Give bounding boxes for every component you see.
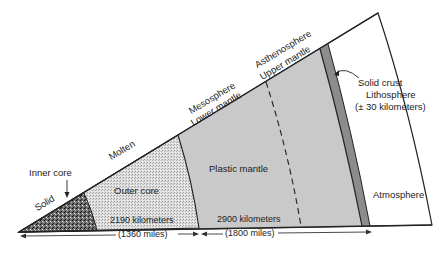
- outer-core-label: Outer core: [114, 186, 159, 196]
- lithosphere-label: Lithosphere: [366, 90, 416, 100]
- plastic-mantle-label: Plastic mantle: [209, 164, 268, 174]
- atmosphere-label: Atmosphere: [373, 190, 424, 200]
- lithosphere-thickness-label: (± 30 kilometers): [355, 102, 426, 112]
- mantle-km-label: 2900 kilometers: [217, 215, 281, 224]
- core-miles-label: (1360 miles): [118, 230, 168, 239]
- inner-core-region: [19, 193, 97, 232]
- solid-crust-label: Solid crust: [358, 78, 402, 88]
- mantle-miles-label: (1800 miles): [225, 229, 275, 238]
- core-dimension-arrow: [20, 232, 199, 239]
- core-km-label: 2190 kilometers: [110, 216, 174, 225]
- inner-core-label: Inner core: [29, 168, 72, 178]
